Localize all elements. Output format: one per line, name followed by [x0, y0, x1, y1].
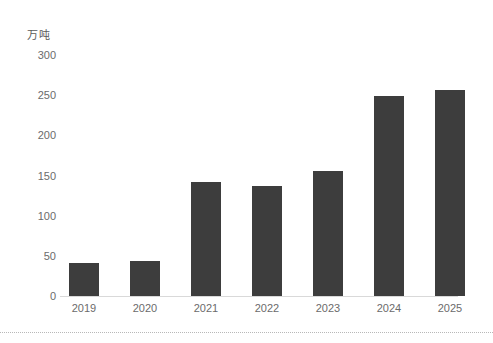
bar-2025	[435, 90, 465, 296]
y-axis-tick-200: 200	[16, 129, 56, 141]
x-axis-tick-2023: 2023	[298, 302, 358, 314]
y-axis-tick-100: 100	[16, 210, 56, 222]
y-axis-tick-0: 0	[16, 290, 56, 302]
x-axis-tick-2025: 2025	[420, 302, 480, 314]
bar-2021	[191, 182, 221, 296]
x-axis-tick-2021: 2021	[176, 302, 236, 314]
y-axis-tick-50: 50	[16, 250, 56, 262]
x-axis-tick-2019: 2019	[54, 302, 114, 314]
x-axis-tick-2020: 2020	[115, 302, 175, 314]
x-axis-tick-2024: 2024	[359, 302, 419, 314]
y-axis-tick-250: 250	[16, 89, 56, 101]
bar-2022	[252, 186, 282, 296]
x-axis-tick-2022: 2022	[237, 302, 297, 314]
bar-2019	[69, 263, 99, 296]
y-axis-tick-150: 150	[16, 170, 56, 182]
x-axis-line	[60, 296, 458, 297]
bottom-divider	[0, 332, 493, 333]
y-axis-tick-300: 300	[16, 49, 56, 61]
bar-2024	[374, 96, 404, 296]
bar-2020	[130, 261, 160, 296]
bar-chart-figure: 万吨 300 250 200 150 100 50 0 2019 2020 20…	[0, 0, 493, 343]
plot-area: 300 250 200 150 100 50 0 2019 2020 2021 …	[0, 0, 493, 343]
bar-2023	[313, 171, 343, 296]
